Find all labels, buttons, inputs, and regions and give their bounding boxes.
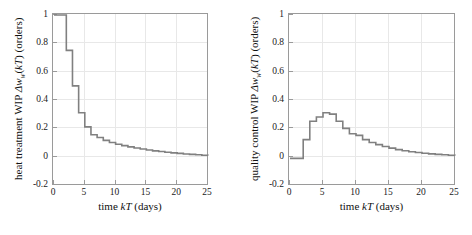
y-axis-title-symbol: Δw <box>12 79 24 93</box>
x-tick-label: 0 <box>51 187 56 197</box>
data-series-line <box>290 113 455 159</box>
x-axis-title-units: (days) <box>132 200 162 212</box>
y-tick-mark <box>289 14 293 15</box>
x-tick-label: 25 <box>449 187 459 197</box>
y-tick-mark <box>289 156 293 157</box>
x-tick-label: 20 <box>171 187 181 197</box>
grid-line-vertical <box>322 14 323 184</box>
x-axis-title: time kT (days) <box>98 200 162 212</box>
x-axis-title-units: (days) <box>373 200 403 212</box>
y-axis-title-units: (orders) <box>248 17 260 55</box>
x-tick-label: 10 <box>110 187 120 197</box>
y-tick-label: 0 <box>236 151 284 161</box>
y-tick-mark <box>53 127 57 128</box>
y-tick-mark <box>289 184 293 185</box>
y-tick-mark <box>53 99 57 100</box>
curve-quality-control-wip <box>290 15 455 185</box>
x-tick-mark <box>176 180 177 184</box>
x-tick-mark <box>53 180 54 184</box>
grid-line-horizontal <box>53 99 207 100</box>
y-tick-label: -0.2 <box>0 179 48 189</box>
x-tick-mark <box>115 180 116 184</box>
grid-line-vertical <box>355 14 356 184</box>
x-axis-title: time kT (days) <box>340 200 404 212</box>
data-series-line <box>54 15 208 156</box>
y-tick-label: 0.6 <box>0 66 48 76</box>
x-tick-mark <box>145 180 146 184</box>
x-tick-mark <box>388 180 389 184</box>
y-axis-title-symbol: Δw <box>248 78 260 92</box>
y-axis-title-prefix: quality control WIP <box>248 91 260 181</box>
grid-line-horizontal <box>289 156 454 157</box>
grid-line-vertical <box>145 14 146 184</box>
x-tick-mark <box>84 180 85 184</box>
y-tick-mark <box>53 42 57 43</box>
y-tick-mark <box>53 156 57 157</box>
y-tick-label: 0.4 <box>236 94 284 104</box>
x-tick-mark <box>421 180 422 184</box>
y-axis-title-paren-close: ) <box>248 54 260 58</box>
y-tick-label: 0.6 <box>236 66 284 76</box>
grid-line-vertical <box>115 14 116 184</box>
grid-line-vertical <box>388 14 389 184</box>
curve-heat-treatment-wip <box>54 15 208 185</box>
y-tick-label: 1 <box>0 9 48 19</box>
x-tick-mark <box>355 180 356 184</box>
x-tick-label: 10 <box>350 187 360 197</box>
figure-container: time kT (days) heat treatment WIP Δww(kT… <box>0 0 472 235</box>
y-tick-mark <box>53 14 57 15</box>
x-tick-label: 15 <box>141 187 151 197</box>
y-tick-mark <box>289 71 293 72</box>
x-tick-mark <box>322 180 323 184</box>
y-tick-label: 0.2 <box>0 122 48 132</box>
x-tick-label: 25 <box>202 187 212 197</box>
grid-line-horizontal <box>289 127 454 128</box>
y-axis-title-paren-close: ) <box>12 55 24 59</box>
y-tick-label: 0.8 <box>236 37 284 47</box>
grid-line-vertical <box>176 14 177 184</box>
grid-line-horizontal <box>289 99 454 100</box>
y-tick-mark <box>289 127 293 128</box>
x-axis-title-symbol: kT <box>362 200 373 212</box>
y-tick-label: -0.2 <box>236 179 284 189</box>
grid-line-horizontal <box>53 42 207 43</box>
x-tick-label: 5 <box>81 187 86 197</box>
x-tick-label: 5 <box>320 187 325 197</box>
x-tick-mark <box>289 180 290 184</box>
x-axis-title-prefix: time <box>340 200 362 212</box>
grid-line-horizontal <box>289 71 454 72</box>
x-tick-label: 0 <box>287 187 292 197</box>
plot-frame-quality-control <box>288 13 455 185</box>
grid-line-horizontal <box>53 127 207 128</box>
y-tick-mark <box>53 184 57 185</box>
x-tick-label: 20 <box>416 187 426 197</box>
y-tick-label: 1 <box>236 9 284 19</box>
y-tick-mark <box>289 42 293 43</box>
x-tick-mark <box>207 180 208 184</box>
grid-line-horizontal <box>53 71 207 72</box>
y-tick-label: 0.8 <box>0 37 48 47</box>
y-tick-mark <box>289 99 293 100</box>
y-tick-label: 0.4 <box>0 94 48 104</box>
x-axis-title-symbol: kT <box>121 200 132 212</box>
y-tick-label: 0.2 <box>236 122 284 132</box>
x-axis-title-prefix: time <box>98 200 120 212</box>
plot-panel-quality-control: time kT (days) quality control WIP Δww(k… <box>236 0 472 235</box>
y-axis-title-prefix: heat treatment WIP <box>12 92 24 180</box>
plot-panel-heat-treatment: time kT (days) heat treatment WIP Δww(kT… <box>0 0 236 235</box>
y-tick-label: 0 <box>0 151 48 161</box>
x-tick-mark <box>454 180 455 184</box>
grid-line-horizontal <box>289 42 454 43</box>
plot-frame-heat-treatment <box>52 13 208 185</box>
x-tick-label: 15 <box>383 187 393 197</box>
y-tick-mark <box>53 71 57 72</box>
grid-line-horizontal <box>53 156 207 157</box>
grid-line-vertical <box>421 14 422 184</box>
grid-line-vertical <box>84 14 85 184</box>
